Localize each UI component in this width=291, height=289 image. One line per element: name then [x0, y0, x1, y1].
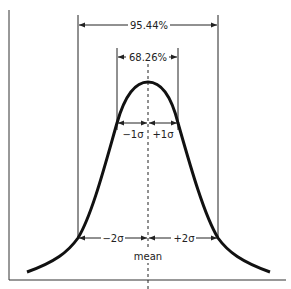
two-sigma-percent-label: 95.44%: [130, 20, 168, 31]
plus-two-sigma-label: +2σ: [173, 233, 195, 244]
one-sigma-percent-label: 68.26%: [129, 52, 167, 63]
normal-distribution-diagram: 95.44% 68.26% −1σ +1σ −2σ +2σ mean: [0, 0, 291, 289]
mean-label: mean: [134, 251, 162, 262]
minus-one-sigma-label: −1σ: [122, 129, 144, 140]
plus-one-sigma-label: +1σ: [152, 129, 174, 140]
bell-curve: [27, 82, 270, 272]
minus-two-sigma-label: −2σ: [102, 233, 124, 244]
